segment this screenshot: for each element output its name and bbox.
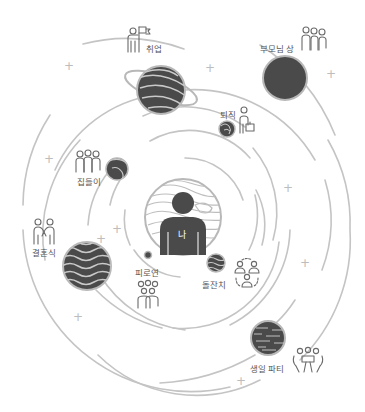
event-label-birthday-party: 생일 파티	[250, 362, 284, 374]
event-label-parents-funeral: 부모님 상	[260, 42, 294, 54]
network-people-icon	[235, 259, 259, 288]
event-label-first-birthday: 돌잔치	[202, 278, 225, 290]
plus-decor: +	[44, 153, 54, 165]
life-events-orbit-diagram: 취업 부모님 상 퇴직 집들이 결혼식 피로연 돌잔치 생일 파티 나 + + …	[0, 0, 365, 412]
three-people-icon	[302, 27, 326, 50]
planet-reception	[145, 252, 152, 259]
plus-decor: +	[205, 62, 215, 74]
person-with-briefcase-icon	[240, 107, 254, 133]
planet-housewarming	[106, 158, 128, 181]
center-planet	[145, 179, 226, 255]
event-label-retirement: 퇴직	[220, 108, 236, 120]
planet-retirement	[219, 121, 235, 137]
event-label-reception: 피로연	[135, 266, 158, 278]
event-label-wedding: 결혼식	[32, 246, 55, 258]
group-people-icon	[76, 150, 100, 172]
plus-decor: +	[283, 182, 293, 194]
event-label-housewarming: 집들이	[77, 175, 100, 187]
plus-decor: +	[236, 375, 246, 387]
plus-decor: +	[96, 233, 106, 245]
plus-decor: +	[300, 257, 310, 269]
planet-first-birthday	[206, 254, 226, 272]
center-label: 나	[178, 228, 186, 241]
event-label-job: 취업	[146, 42, 162, 54]
plus-decor: +	[326, 68, 336, 80]
plus-decor: +	[73, 311, 83, 323]
planet-parents-funeral	[263, 56, 307, 100]
crowd-icon	[138, 280, 158, 308]
planet-wedding	[62, 240, 112, 291]
planet-job	[137, 66, 186, 114]
plus-decor: +	[112, 223, 122, 235]
planet-birthday-party	[251, 321, 285, 355]
plus-decor: +	[64, 60, 74, 72]
